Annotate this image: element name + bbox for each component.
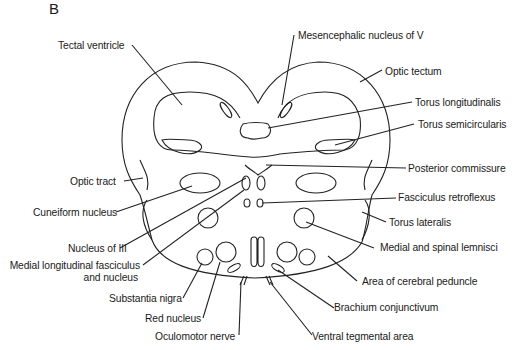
label-oculomotor-nerve: Oculomotor nerve [155, 331, 235, 343]
nucleus-of-iii-right [257, 176, 265, 190]
label-cuneiform-nucleus: Cuneiform nucleus [33, 207, 117, 219]
label-torus-semicircularis: Torus semicircularis [418, 119, 506, 131]
label-area-cerebral-peduncle: Area of cerebral peduncle [362, 276, 477, 288]
cuneiform-nucleus-right [296, 173, 336, 193]
label-substantia-nigra: Substantia nigra [109, 293, 182, 305]
red-nucleus-left [216, 242, 236, 262]
label-optic-tract: Optic tract [70, 176, 116, 188]
fasciculus-retroflexus-left [244, 199, 250, 207]
label-optic-tectum: Optic tectum [385, 66, 442, 78]
brachium-conjunctivum-right [270, 262, 285, 274]
optic-tract-right [364, 160, 372, 190]
label-red-nucleus: Red nucleus [145, 313, 201, 325]
mlf-columns [251, 237, 264, 267]
label-mlf-line2: and nucleus [8, 272, 138, 284]
label-mlf-line1: Medial longitudinal fasciculus [8, 260, 140, 272]
mesencephalic-nucleus-right [278, 101, 293, 119]
label-medial-spinal-lemnisci: Medial and spinal lemnisci [380, 242, 498, 254]
label-torus-longitudinalis: Torus longitudinalis [415, 97, 501, 109]
torus-longitudinalis [240, 123, 270, 140]
torus-lateralis-right [362, 200, 369, 240]
label-nucleus-of-iii: Nucleus of III [68, 243, 127, 255]
optic-tract-left [140, 160, 148, 190]
label-tectal-ventricle: Tectal ventricle [58, 40, 125, 52]
lemnisci-right [294, 208, 314, 228]
outer-outline [122, 62, 390, 278]
mesencephalic-nucleus-left [218, 101, 233, 119]
label-fasciculus-retroflexus: Fasciculus retroflexus [398, 192, 495, 204]
label-torus-lateralis: Torus lateralis [389, 217, 451, 229]
red-nucleus-right [277, 242, 297, 262]
posterior-commissure [245, 165, 272, 175]
label-mesencephalic-nucleus-v: Mesencephalic nucleus of V [298, 30, 424, 42]
label-ventral-tegmental-area: Ventral tegmental area [312, 331, 413, 343]
midbrain-cross-section-diagram [0, 0, 514, 350]
label-posterior-commissure: Posterior commissure [408, 163, 506, 175]
cuneiform-nucleus-left [180, 173, 220, 193]
substantia-nigra-left [197, 249, 213, 265]
label-brachium-conjunctivum: Brachium conjunctivum [334, 302, 438, 314]
substantia-nigra-right [299, 249, 315, 265]
brachium-conjunctivum-left [226, 262, 241, 274]
